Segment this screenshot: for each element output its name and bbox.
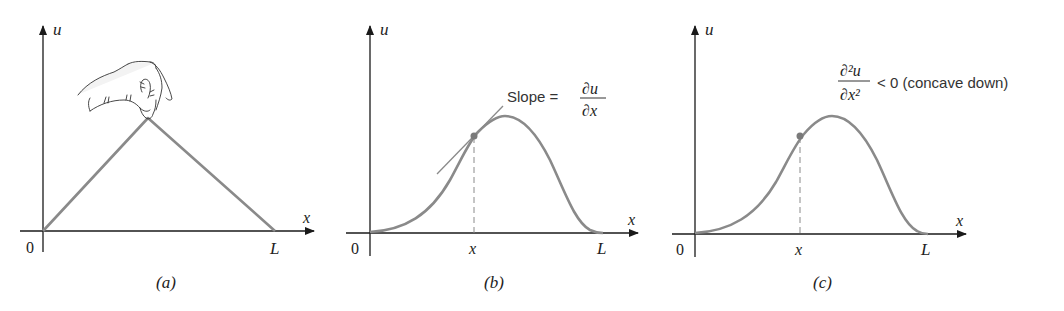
hand-icon	[77, 61, 172, 118]
plucked-string-curve	[43, 118, 275, 231]
length-label: L	[920, 240, 930, 259]
point-marker	[471, 133, 478, 140]
caption-b: (b)	[484, 273, 504, 292]
origin-label: 0	[26, 239, 34, 256]
caption-c: (c)	[813, 273, 832, 292]
tangent-line	[437, 106, 503, 174]
point-marker	[797, 133, 804, 140]
panel-c: ∂²u ∂x² < 0 (concave down) u x 0 x L (c)	[672, 20, 1008, 292]
panel-b: Slope = ∂u ∂x u x 0 x L (b)	[346, 20, 638, 292]
origin-label: 0	[676, 241, 684, 258]
length-label: L	[269, 239, 279, 258]
concavity-denominator: ∂x²	[840, 86, 861, 103]
displacement-curve	[370, 116, 603, 233]
y-axis-label: u	[380, 20, 389, 39]
length-label: L	[596, 239, 606, 258]
x-axis-label: x	[627, 211, 635, 228]
panel-a: u x 0 L (a)	[20, 20, 314, 292]
point-x-label: x	[794, 241, 802, 258]
caption-a: (a)	[156, 273, 176, 292]
point-x-label: x	[468, 240, 476, 257]
x-axis-label: x	[302, 209, 310, 226]
concavity-suffix: < 0 (concave down)	[877, 74, 1008, 91]
displacement-curve	[695, 116, 928, 234]
slope-denominator: ∂x	[582, 102, 597, 119]
origin-label: 0	[351, 240, 359, 257]
slope-numerator: ∂u	[582, 80, 598, 97]
x-axis-label: x	[955, 212, 963, 229]
y-axis-label: u	[705, 20, 714, 39]
slope-prefix: Slope =	[507, 88, 559, 105]
figure-canvas: u x 0 L (a) Slope = ∂u ∂x u x 0 x L (b) …	[0, 0, 1064, 311]
y-axis-label: u	[53, 20, 62, 39]
concavity-numerator: ∂²u	[840, 62, 861, 79]
